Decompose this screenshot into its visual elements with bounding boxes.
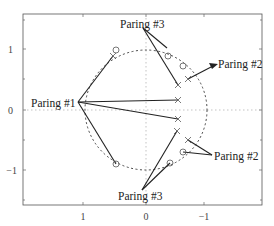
x-tick-label-0: 0 [144, 211, 149, 222]
x-tick-label-neg1: −1 [199, 211, 210, 222]
label-paring-2-bottom: Paring #2 [214, 150, 259, 163]
y-ticks [23, 20, 262, 200]
y-tick-label-0: 0 [8, 105, 13, 116]
zero-markers [113, 47, 186, 167]
x-ticks [83, 14, 204, 205]
pole-zero-chart: 1 0 −1 1 0 −1 [0, 0, 274, 226]
annotation-lines [78, 28, 213, 190]
y-tick-label-1: 1 [8, 44, 13, 55]
label-paring-3-top: Paring #3 [120, 18, 165, 31]
y-tick-label-neg1: −1 [6, 165, 17, 176]
arrowhead-icon [209, 63, 218, 69]
pole-markers [110, 53, 191, 143]
label-paring-1: Paring #1 [31, 97, 76, 110]
label-paring-2-top: Paring #2 [218, 58, 263, 71]
plot-frame [23, 14, 262, 205]
x-tick-label-1: 1 [81, 211, 86, 222]
label-paring-3-bottom: Paring #3 [118, 190, 163, 203]
